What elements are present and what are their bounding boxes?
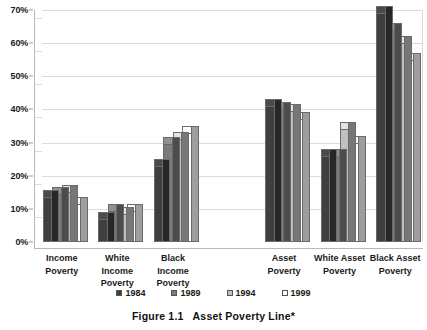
bar-side	[71, 185, 78, 242]
bar-side	[173, 137, 180, 242]
bar-top	[98, 212, 108, 219]
bar-side	[163, 159, 170, 242]
bar-side	[340, 149, 347, 242]
bar-side	[303, 112, 310, 242]
bar-face	[376, 13, 386, 242]
bar-side	[127, 207, 134, 242]
y-axis-tick-mark	[29, 208, 33, 209]
y-axis-tick-mark	[29, 242, 33, 243]
bar	[43, 197, 53, 242]
bar-side	[136, 204, 143, 242]
y-axis-tick-label: 50%	[0, 71, 28, 81]
bar-side	[386, 6, 393, 242]
x-axis-label-line: Poverty	[361, 265, 427, 278]
bar-face	[321, 156, 331, 242]
y-axis-tick-mark	[29, 10, 33, 11]
y-axis-tick-label: 10%	[0, 204, 28, 214]
bar-side	[414, 53, 421, 242]
bar-top	[163, 137, 173, 144]
bar	[154, 166, 164, 242]
bar	[321, 156, 331, 242]
legend-swatch	[227, 290, 233, 296]
x-axis-label-line: Black Asset	[361, 252, 427, 265]
figure-caption: Figure 1.1Asset Poverty Line*	[0, 310, 427, 322]
y-axis-tick-mark	[29, 109, 33, 110]
y-axis-tick-label: 20%	[0, 171, 28, 181]
figure-number: Figure 1.1	[132, 310, 184, 322]
bar-side	[81, 197, 88, 242]
bar-face	[43, 197, 53, 242]
legend-swatch	[171, 290, 177, 296]
x-axis-category-label: Black AssetPoverty	[361, 252, 427, 277]
bar-top	[265, 99, 275, 106]
y-axis-tick-mark	[29, 76, 33, 77]
bar-side	[275, 99, 282, 242]
x-axis-label-line: Black	[139, 252, 207, 265]
legend-swatch	[116, 290, 122, 296]
bar-top	[154, 159, 164, 166]
legend-label: 1984	[125, 288, 145, 298]
bar-top	[340, 122, 350, 129]
legend-item: 1999	[282, 288, 311, 298]
legend-item: 1984	[116, 288, 145, 298]
y-axis-tick-mark	[29, 43, 33, 44]
bar	[265, 106, 275, 242]
bar-side	[192, 126, 199, 242]
bar-side	[395, 23, 402, 242]
bar-side	[117, 204, 124, 242]
bar-series-layer	[34, 10, 423, 249]
bar-side	[108, 212, 115, 242]
legend-label: 1999	[291, 288, 311, 298]
y-axis-tick-mark	[29, 142, 33, 143]
x-axis-category-label: BlackIncomePoverty	[139, 252, 207, 290]
bar-side	[294, 104, 301, 242]
y-axis-tick-label: 60%	[0, 38, 28, 48]
bar-top	[376, 6, 386, 13]
y-axis-tick-label: 30%	[0, 138, 28, 148]
bar-side	[52, 190, 59, 242]
bar	[376, 13, 386, 242]
bar-face	[154, 166, 164, 242]
y-axis-tick-label: 40%	[0, 104, 28, 114]
asset-poverty-chart: 0%10%20%30%40%50%60%70% IncomePovertyWhi…	[0, 0, 427, 330]
y-axis-tick-mark	[29, 175, 33, 176]
y-axis-tick-label: 0%	[0, 237, 28, 247]
legend-label: 1994	[236, 288, 256, 298]
bar-top	[108, 204, 118, 211]
bar-side	[349, 122, 356, 242]
legend-swatch	[282, 290, 288, 296]
bar-side	[284, 102, 291, 242]
bar	[98, 219, 108, 242]
figure-title: Asset Poverty Line*	[193, 310, 295, 322]
bar-top	[43, 190, 53, 197]
bar-side	[405, 36, 412, 242]
bar-side	[359, 136, 366, 242]
bar-side	[330, 149, 337, 242]
y-axis-tick-label: 70%	[0, 5, 28, 15]
bar-side	[62, 187, 69, 242]
bar-face	[98, 219, 108, 242]
chart-legend: 1984198919941999	[0, 288, 427, 298]
legend-item: 1994	[227, 288, 256, 298]
legend-item: 1989	[171, 288, 200, 298]
legend-label: 1989	[180, 288, 200, 298]
bar-side	[182, 132, 189, 242]
x-axis-label-line: Income	[139, 265, 207, 278]
bar-face	[265, 106, 275, 242]
bar-top	[321, 149, 331, 156]
